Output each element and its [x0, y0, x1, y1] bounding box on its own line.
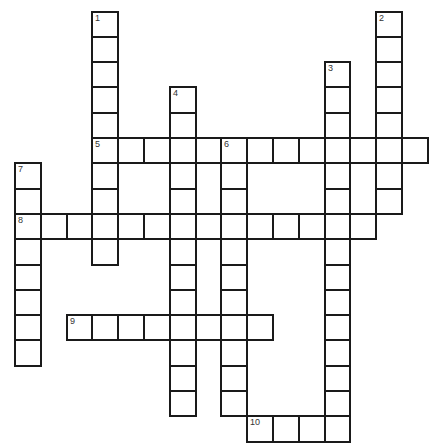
crossword-cell[interactable] — [195, 213, 222, 240]
crossword-cell[interactable] — [169, 289, 197, 316]
crossword-cell[interactable] — [91, 112, 119, 139]
crossword-cell[interactable] — [375, 162, 403, 190]
crossword-cell[interactable] — [169, 365, 197, 392]
crossword-cell[interactable] — [91, 213, 119, 240]
clue-number: 6 — [224, 139, 229, 150]
crossword-cell[interactable] — [324, 213, 351, 240]
crossword-cell[interactable] — [91, 314, 119, 341]
crossword-cell[interactable] — [324, 86, 351, 114]
crossword-cell[interactable] — [220, 162, 248, 190]
crossword-cell[interactable] — [195, 314, 222, 341]
crossword-cell[interactable] — [66, 213, 93, 240]
crossword-cell[interactable] — [14, 289, 42, 316]
crossword-cell[interactable] — [14, 339, 42, 367]
crossword-cell[interactable] — [14, 188, 42, 215]
crossword-cell[interactable] — [220, 238, 248, 266]
crossword-grid: 15234678910 — [0, 0, 445, 446]
crossword-cell[interactable] — [220, 289, 248, 316]
crossword-cell[interactable]: 7 — [14, 162, 42, 190]
crossword-cell[interactable]: 8 — [14, 213, 42, 240]
crossword-cell[interactable] — [14, 314, 42, 341]
crossword-cell[interactable] — [14, 264, 42, 291]
crossword-cell[interactable] — [298, 213, 326, 240]
clue-number: 9 — [70, 316, 75, 327]
crossword-cell[interactable] — [324, 188, 351, 215]
crossword-cell[interactable] — [324, 365, 351, 392]
crossword-cell[interactable] — [349, 137, 377, 164]
crossword-cell[interactable] — [272, 415, 300, 443]
crossword-cell[interactable] — [91, 61, 119, 88]
crossword-cell[interactable] — [195, 137, 222, 164]
crossword-cell[interactable] — [246, 137, 274, 164]
crossword-cell[interactable] — [220, 390, 248, 417]
crossword-cell[interactable] — [169, 238, 197, 266]
clue-number: 1 — [95, 13, 100, 24]
crossword-cell[interactable] — [117, 213, 145, 240]
crossword-cell[interactable] — [40, 213, 68, 240]
crossword-cell[interactable] — [14, 238, 42, 266]
crossword-cell[interactable]: 5 — [91, 137, 119, 164]
crossword-cell[interactable] — [220, 213, 248, 240]
crossword-cell[interactable] — [169, 264, 197, 291]
crossword-cell[interactable] — [143, 213, 171, 240]
crossword-cell[interactable] — [375, 112, 403, 139]
crossword-cell[interactable] — [220, 264, 248, 291]
crossword-cell[interactable] — [220, 339, 248, 367]
crossword-cell[interactable] — [349, 213, 377, 240]
crossword-cell[interactable] — [401, 137, 429, 164]
crossword-cell[interactable] — [143, 137, 171, 164]
crossword-cell[interactable] — [169, 137, 197, 164]
crossword-cell[interactable]: 1 — [91, 11, 119, 38]
crossword-cell[interactable] — [143, 314, 171, 341]
crossword-cell[interactable] — [169, 314, 197, 341]
crossword-cell[interactable] — [272, 213, 300, 240]
crossword-cell[interactable]: 2 — [375, 11, 403, 38]
crossword-cell[interactable]: 6 — [220, 137, 248, 164]
crossword-cell[interactable] — [324, 314, 351, 341]
crossword-cell[interactable]: 4 — [169, 86, 197, 114]
crossword-cell[interactable] — [91, 162, 119, 190]
crossword-cell[interactable] — [324, 390, 351, 417]
crossword-cell[interactable] — [246, 213, 274, 240]
clue-number: 4 — [173, 88, 178, 99]
crossword-cell[interactable] — [324, 162, 351, 190]
crossword-cell[interactable] — [298, 415, 326, 443]
clue-number: 7 — [18, 164, 23, 175]
crossword-cell[interactable] — [246, 314, 274, 341]
crossword-cell[interactable] — [220, 365, 248, 392]
crossword-cell[interactable] — [117, 314, 145, 341]
clue-number: 2 — [379, 13, 384, 24]
crossword-cell[interactable] — [117, 137, 145, 164]
crossword-cell[interactable]: 10 — [246, 415, 274, 443]
crossword-cell[interactable] — [324, 137, 351, 164]
crossword-cell[interactable] — [375, 36, 403, 63]
crossword-cell[interactable] — [220, 188, 248, 215]
crossword-cell[interactable] — [324, 238, 351, 266]
crossword-cell[interactable]: 3 — [324, 61, 351, 88]
clue-number: 3 — [328, 63, 333, 74]
crossword-cell[interactable] — [220, 314, 248, 341]
crossword-cell[interactable] — [298, 137, 326, 164]
crossword-cell[interactable] — [375, 86, 403, 114]
crossword-cell[interactable] — [91, 36, 119, 63]
crossword-cell[interactable] — [324, 289, 351, 316]
crossword-cell[interactable] — [169, 213, 197, 240]
crossword-cell[interactable] — [169, 112, 197, 139]
crossword-cell[interactable] — [375, 137, 403, 164]
crossword-cell[interactable] — [324, 112, 351, 139]
crossword-cell[interactable] — [169, 390, 197, 417]
clue-number: 10 — [250, 417, 260, 428]
crossword-cell[interactable] — [169, 188, 197, 215]
crossword-cell[interactable] — [91, 238, 119, 266]
crossword-cell[interactable] — [91, 188, 119, 215]
crossword-cell[interactable] — [375, 188, 403, 215]
crossword-cell[interactable] — [375, 61, 403, 88]
crossword-cell[interactable] — [169, 162, 197, 190]
crossword-cell[interactable] — [91, 86, 119, 114]
crossword-cell[interactable]: 9 — [66, 314, 93, 341]
crossword-cell[interactable] — [324, 339, 351, 367]
crossword-cell[interactable] — [324, 415, 351, 443]
crossword-cell[interactable] — [169, 339, 197, 367]
crossword-cell[interactable] — [272, 137, 300, 164]
crossword-cell[interactable] — [324, 264, 351, 291]
